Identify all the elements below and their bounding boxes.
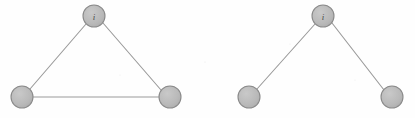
- node-left-bottom-right[interactable]: [159, 86, 181, 108]
- scan-speck: [290, 44, 291, 45]
- edge-top-to-bottom-left: [257, 24, 315, 89]
- node-left-bottom-left[interactable]: [11, 86, 33, 108]
- node-circle[interactable]: [238, 86, 260, 108]
- node-right-top[interactable]: i: [312, 5, 334, 27]
- left-graph-nodes: i: [11, 5, 181, 108]
- right-graph-edges: [257, 23, 384, 90]
- scan-speck: [120, 75, 121, 76]
- node-right-bottom-right[interactable]: [381, 86, 403, 108]
- scan-noise-layer: [120, 44, 356, 81]
- node-circle[interactable]: [11, 86, 33, 108]
- left-graph: i: [11, 5, 181, 108]
- node-circle[interactable]: [159, 86, 181, 108]
- right-graph-nodes: i: [238, 5, 403, 108]
- edge-top-to-bottom-right: [332, 23, 384, 90]
- figure-container: i i: [0, 0, 415, 118]
- node-circle[interactable]: [381, 86, 403, 108]
- scan-speck: [355, 80, 356, 81]
- graph-figure-canvas: i i: [0, 0, 415, 118]
- edge-top-to-bottom-left: [30, 24, 86, 89]
- node-left-top[interactable]: i: [83, 5, 105, 27]
- left-graph-edges: [30, 23, 161, 97]
- right-graph: i: [238, 5, 403, 108]
- node-right-bottom-left[interactable]: [238, 86, 260, 108]
- scan-speck: [204, 61, 205, 62]
- edge-top-to-bottom-right: [103, 23, 161, 90]
